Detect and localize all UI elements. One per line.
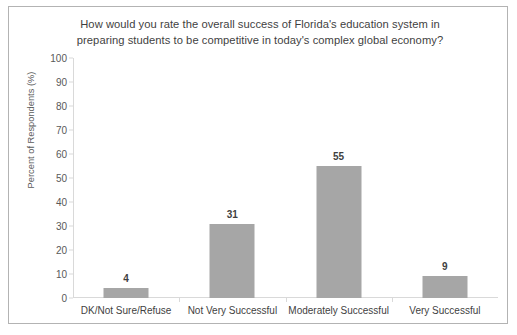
bar-value-label: 31	[227, 209, 238, 220]
bar-slot: 9	[392, 58, 498, 298]
category-divider	[286, 298, 287, 302]
chart-container: How would you rate the overall success o…	[8, 6, 508, 324]
y-tick-label: 90	[56, 77, 67, 88]
x-tick-label: DK/Not Sure/Refuse	[73, 305, 179, 316]
plot-area: 1009080706050403020100 431559	[73, 58, 498, 298]
y-tick-label: 100	[50, 53, 67, 64]
y-tick-label: 40	[56, 197, 67, 208]
chart-title: How would you rate the overall success o…	[45, 16, 475, 48]
bar-slot: 55	[286, 58, 392, 298]
bar[interactable]	[104, 288, 149, 298]
bar-slot: 31	[179, 58, 285, 298]
bar[interactable]	[422, 276, 467, 298]
bar[interactable]	[210, 224, 255, 298]
chart-title-line-1: How would you rate the overall success o…	[45, 16, 475, 32]
category-divider	[392, 298, 393, 302]
y-tick-label: 70	[56, 125, 67, 136]
y-tick-label: 20	[56, 245, 67, 256]
y-tick-label: 10	[56, 269, 67, 280]
x-tick-label: Not Very Successful	[179, 305, 285, 316]
bar-value-label: 4	[123, 273, 129, 284]
bar[interactable]	[316, 166, 361, 298]
y-axis-title: Percent of Respondents (%)	[26, 50, 36, 210]
chart-title-line-2: preparing students to be competitive in …	[45, 32, 475, 48]
category-divider	[179, 298, 180, 302]
x-tick-label: Very Successful	[392, 305, 498, 316]
bar-slot: 4	[73, 58, 179, 298]
y-tick-label: 0	[61, 293, 67, 304]
y-tick-label: 60	[56, 149, 67, 160]
bar-value-label: 9	[442, 261, 448, 272]
bar-value-label: 55	[333, 151, 344, 162]
x-tick-label: Moderately Successful	[286, 305, 392, 316]
y-tick-label: 50	[56, 173, 67, 184]
y-tick-label: 30	[56, 221, 67, 232]
y-tick-label: 80	[56, 101, 67, 112]
